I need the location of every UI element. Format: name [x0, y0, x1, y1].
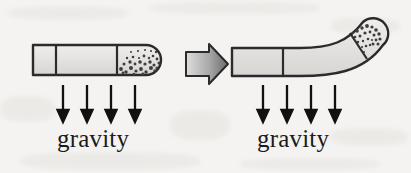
gravity-arrow — [82, 85, 93, 122]
gravity-arrow — [330, 85, 341, 122]
transition-arrow — [186, 44, 228, 84]
gravity-arrow — [306, 85, 317, 122]
block-arrow-right-icon — [186, 44, 228, 84]
gravity-arrow — [58, 85, 69, 122]
gravity-arrows-after — [258, 85, 341, 122]
panel-before — [33, 45, 161, 122]
root-tube-after — [232, 18, 388, 76]
gravity-arrow — [258, 85, 269, 122]
panel-after — [232, 18, 388, 122]
gravity-arrows-before — [58, 85, 141, 122]
gravity-arrow — [106, 85, 117, 122]
gravity-arrow — [282, 85, 293, 122]
gravity-label-after: gravity — [257, 126, 329, 151]
gravity-label-before: gravity — [57, 126, 129, 151]
gravitropism-figure: gravity gravity — [0, 0, 411, 173]
gravity-arrow — [130, 85, 141, 122]
